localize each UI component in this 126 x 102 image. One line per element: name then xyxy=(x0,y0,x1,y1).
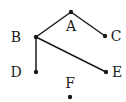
node-label-f: F xyxy=(65,75,75,91)
node-label-a: A xyxy=(65,18,77,34)
node-f xyxy=(68,95,72,99)
node-a xyxy=(69,10,73,14)
node-b xyxy=(34,35,38,39)
node-d xyxy=(34,70,38,74)
edge-b-e xyxy=(36,37,106,72)
node-e xyxy=(104,70,108,74)
graph-diagram: ABCDEF xyxy=(0,0,126,102)
node-label-b: B xyxy=(11,29,21,45)
node-c xyxy=(103,34,107,38)
node-label-c: C xyxy=(111,28,122,44)
node-label-d: D xyxy=(10,64,21,80)
node-label-e: E xyxy=(112,64,122,80)
edge-a-c xyxy=(71,12,105,36)
